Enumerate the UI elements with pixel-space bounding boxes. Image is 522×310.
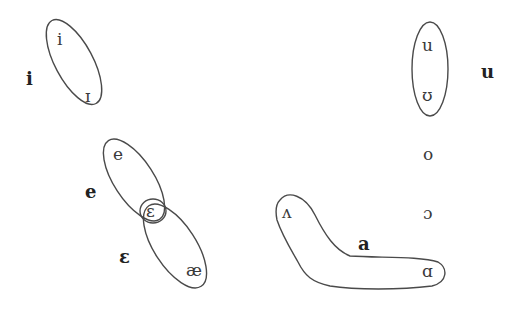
- symbol-o: o: [423, 144, 433, 164]
- symbol-uu: ʊ: [422, 85, 433, 105]
- symbol-e: e: [113, 144, 123, 164]
- symbol-u: u: [422, 35, 433, 55]
- symbol-ih: ɪ: [85, 86, 91, 106]
- label-i: i: [26, 68, 33, 89]
- label-eps: ɛ: [119, 246, 130, 267]
- symbol-i: i: [57, 29, 63, 49]
- group-i-outline: [35, 12, 113, 113]
- symbol-oo: ɔ: [423, 203, 433, 223]
- label-a: a: [358, 233, 370, 254]
- symbol-uh: ʌ: [281, 202, 292, 222]
- group-eps-outline: [131, 194, 219, 297]
- label-e: e: [85, 181, 96, 202]
- group-e-outline: [92, 130, 177, 231]
- symbol-eh: ɛ: [146, 201, 155, 221]
- symbol-ae: æ: [186, 260, 202, 280]
- vowel-diagram: i ɪ e ɛ æ ʌ ɑ u ʊ o ɔ i e ɛ a u: [0, 0, 522, 310]
- label-u: u: [481, 61, 494, 82]
- diagram-svg: i ɪ e ɛ æ ʌ ɑ u ʊ o ɔ i e ɛ a u: [0, 0, 522, 310]
- symbol-aa: ɑ: [422, 261, 433, 281]
